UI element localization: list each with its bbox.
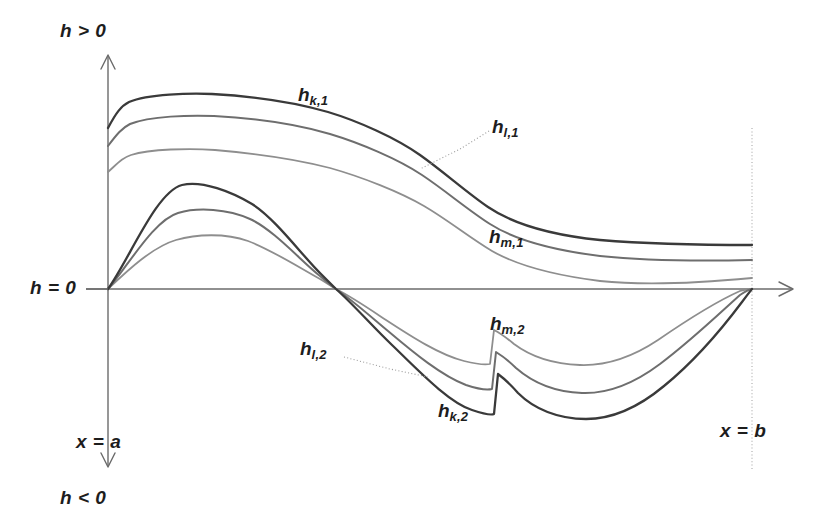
curve-label-h-k-1: hk,1 [298,84,328,108]
curve-label-subscript: k,2 [450,409,469,424]
curve-h-l-1 [108,116,752,261]
label-h-positive: h > 0 [60,20,106,42]
curve-label-subscript: m,1 [501,235,524,250]
curve-h-m-2 [108,235,752,365]
label-h-zero: h = 0 [30,277,76,299]
horizontal-axis [86,282,793,296]
curve-label-subscript: l,2 [312,347,327,362]
curve-label-subscript: k,1 [310,93,329,108]
label-x-equals-b: x = b [720,420,766,442]
curve-label-h-k-2: hk,2 [438,400,468,424]
curve-label-subscript: m,2 [502,322,525,337]
curve-label-base: h [492,116,504,137]
curve-label-base: h [298,84,310,105]
curve-label-base: h [300,338,312,359]
curve-h-l-2 [108,210,752,393]
vertical-axis [101,55,115,467]
curve-label-h-l-1: hl,1 [492,116,519,140]
curve-label-subscript: l,1 [504,125,519,140]
label-x-equals-a: x = a [76,431,121,453]
curve-label-base: h [489,226,501,247]
figure-canvas: h > 0 h = 0 h < 0 x = a x = b hk,1 hl,1 … [0,0,817,530]
label-h-negative: h < 0 [60,487,106,509]
curve-label-h-l-2: hl,2 [300,338,327,362]
curve-label-base: h [438,400,450,421]
diagram-svg [0,0,817,530]
curve-label-base: h [490,313,502,334]
curve-label-h-m-2: hm,2 [490,313,525,337]
curve-label-h-m-1: hm,1 [489,226,524,250]
curve-h-k-2 [108,184,752,419]
curve-h-m-1 [108,149,752,283]
